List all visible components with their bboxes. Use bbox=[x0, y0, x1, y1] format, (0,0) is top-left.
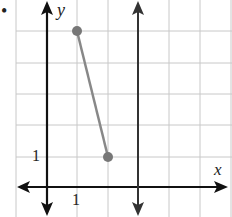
endpoint-1-5 bbox=[72, 26, 82, 36]
endpoint-2-1 bbox=[103, 152, 113, 162]
x-axis-label: x bbox=[214, 160, 222, 180]
y-tick-label-1: 1 bbox=[32, 147, 40, 165]
coordinate-plane bbox=[0, 0, 232, 217]
x-tick-label-1: 1 bbox=[72, 191, 80, 209]
grid-lines bbox=[16, 0, 232, 217]
y-axis bbox=[41, 1, 53, 216]
vertical-line-x3 bbox=[132, 1, 144, 216]
y-axis-label: y bbox=[57, 0, 65, 21]
x-axis bbox=[17, 181, 228, 193]
